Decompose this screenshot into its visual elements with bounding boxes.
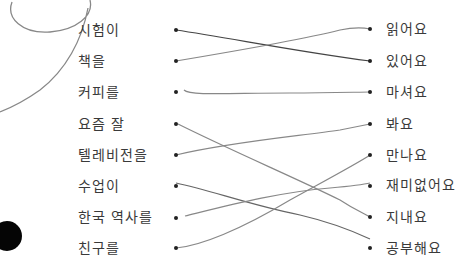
- left-item: 요즘 잘: [78, 116, 125, 132]
- left-item: 책을: [78, 53, 106, 69]
- right-dot: [368, 122, 372, 126]
- match-line-2: [176, 28, 370, 61]
- left-item: 커피를: [78, 84, 120, 100]
- right-item: 봐요: [386, 116, 414, 132]
- match-line-7: [185, 183, 370, 216]
- left-dot: [174, 59, 178, 63]
- left-item: 텔레비전을: [78, 147, 148, 163]
- right-item: 있어요: [386, 53, 428, 69]
- left-dot: [174, 246, 178, 250]
- left-dot: [174, 90, 178, 94]
- match-line-3: [184, 90, 370, 94]
- left-dot: [174, 184, 178, 188]
- right-dot: [368, 153, 372, 157]
- margin-curve: [0, 0, 91, 112]
- right-item: 읽어요: [386, 21, 428, 37]
- right-item: 공부해요: [386, 240, 442, 256]
- left-item: 시험이: [78, 22, 120, 38]
- right-dot: [368, 215, 372, 219]
- left-dot: [174, 28, 178, 32]
- right-dot: [368, 27, 372, 31]
- left-dot: [174, 122, 178, 126]
- hand-drawn-annotation-layer: [0, 0, 472, 274]
- left-dot: [174, 216, 178, 220]
- left-item: 친구를: [78, 240, 120, 256]
- left-dot: [174, 153, 178, 157]
- right-item: 재미없어요: [386, 177, 456, 193]
- right-item: 마셔요: [386, 84, 428, 100]
- right-item: 지내요: [386, 209, 428, 225]
- left-item: 한국 역사를: [78, 209, 153, 225]
- left-item: 수업이: [78, 178, 120, 194]
- right-dot: [368, 59, 372, 63]
- right-dot: [368, 184, 372, 188]
- right-item: 만나요: [386, 147, 428, 163]
- match-line-5: [176, 124, 370, 155]
- right-dot: [368, 90, 372, 94]
- right-dot: [368, 246, 372, 250]
